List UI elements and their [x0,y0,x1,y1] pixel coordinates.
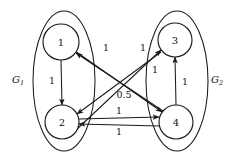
edge-weight-2-to-4: 1 [116,105,122,116]
node-label-1: 1 [58,37,64,48]
group-label-G1-base: G [12,74,20,85]
node-label-4: 4 [173,117,179,128]
group-label-G2-sub: 2 [218,79,223,87]
edge-4-to-3 [175,57,176,105]
edge-1-to-4 [75,51,162,112]
node-label-2: 2 [59,117,65,128]
edge-weight-4-to-1: 1 [103,42,109,53]
edge-weight-4-to-3: 1 [182,76,188,87]
edge-weight-3-to-2: 0.5 [116,89,131,100]
group-label-G2-base: G [211,74,219,85]
edge-weight-2-to-3: 1 [140,42,146,53]
edge-weight-4-to-2: 1 [116,126,122,137]
edge-weight-1-to-2: 1 [49,75,55,86]
group-label-G2: G2 [211,74,223,87]
graph-figure: 1 2 3 4 1 1 1 1 1 0.5 1 1 G1 G2 [0,0,235,159]
group-label-G1: G1 [12,74,24,87]
edge-weight-1-to-4: 1 [152,64,158,75]
graph-canvas: 1 2 3 4 1 1 1 1 1 0.5 1 1 G1 G2 [0,0,235,159]
edge-1-to-2 [61,60,62,105]
node-label-3: 3 [172,35,178,46]
group-label-G1-sub: 1 [20,79,24,87]
